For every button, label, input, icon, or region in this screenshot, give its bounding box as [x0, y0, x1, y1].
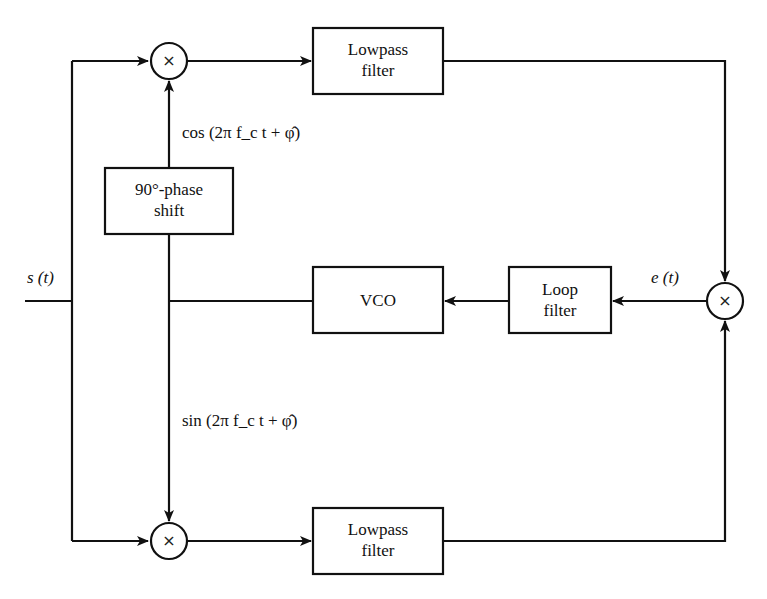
vco-label: VCO [313, 290, 443, 311]
lowpass-top-label: Lowpass filter [313, 39, 443, 81]
phase-shift-line2: shift [105, 200, 233, 221]
phase-shift-line1: 90°-phase [105, 179, 233, 200]
loop-filter-line1: Loop [509, 279, 611, 300]
lowpass-top-line1: Lowpass [313, 39, 443, 60]
loop-filter-label: Loop filter [509, 279, 611, 321]
multiplier-right-icon: × [711, 287, 739, 315]
sin-reference-label: sin (2π f_c t + φ̂) [182, 411, 297, 431]
error-signal-label: e (t) [651, 268, 679, 288]
lowpass-top-line2: filter [313, 60, 443, 81]
phase-shift-label: 90°-phase shift [105, 179, 233, 221]
lowpass-bottom-line1: Lowpass [313, 519, 443, 540]
input-signal-label: s (t) [27, 268, 54, 288]
loop-filter-line2: filter [509, 300, 611, 321]
multiplier-top-icon: × [155, 47, 183, 75]
lowpass-bottom-label: Lowpass filter [313, 519, 443, 561]
multiplier-bottom-icon: × [155, 527, 183, 555]
wire-bottom-lpf-to-right-mult [443, 321, 725, 541]
cos-reference-label: cos (2π f_c t + φ̂) [182, 123, 300, 143]
wire-top-lpf-to-right-mult [443, 61, 725, 281]
lowpass-bottom-line2: filter [313, 540, 443, 561]
